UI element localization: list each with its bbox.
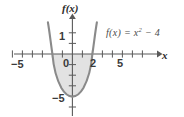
- y-tick-label-one: 1: [59, 31, 65, 42]
- x-tick-label-neg5: −5: [11, 59, 24, 70]
- x-tick-label-two: 2: [90, 58, 96, 69]
- function-equation-label: f(x) = x2 − 4: [106, 27, 160, 38]
- y-tick-label-neg5: −5: [52, 93, 65, 104]
- graph-figure: −5 0 2 5 1 −5 f(x) x f(x) = x2 − 4: [0, 0, 184, 117]
- x-tick-label-five: 5: [117, 58, 123, 69]
- equation-minus: −: [145, 27, 152, 38]
- x-tick-label-zero: 0: [63, 58, 69, 69]
- equation-exponent: 2: [139, 26, 143, 33]
- y-axis-arrow: [69, 14, 76, 19]
- equation-function-name: f(x): [106, 27, 121, 38]
- x-axis-label: x: [162, 50, 168, 61]
- y-axis-label: f(x): [62, 3, 79, 14]
- equation-constant: 4: [155, 27, 160, 38]
- equation-equals: =: [124, 27, 131, 38]
